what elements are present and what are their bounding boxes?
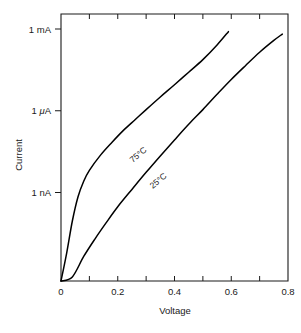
y-tick-label: 1 mA (29, 24, 52, 35)
x-axis-title: Voltage (159, 305, 191, 316)
diode-iv-semilog-chart: 00.20.40.60.8 1 mA1 μA1 nA 75°C 25°C Vol… (0, 0, 301, 333)
y-tick-label: 1 nA (31, 187, 51, 198)
x-tick-label: 0.8 (281, 286, 294, 297)
x-tick-label: 0 (58, 286, 63, 297)
x-tick-label: 0.2 (111, 286, 124, 297)
chart-figure: 00.20.40.60.8 1 mA1 μA1 nA 75°C 25°C Vol… (0, 0, 301, 333)
x-tick-label: 0.6 (225, 286, 238, 297)
x-tick-label: 0.4 (168, 286, 181, 297)
y-tick-label: 1 μA (32, 105, 52, 116)
y-axis-title: Current (13, 139, 24, 171)
